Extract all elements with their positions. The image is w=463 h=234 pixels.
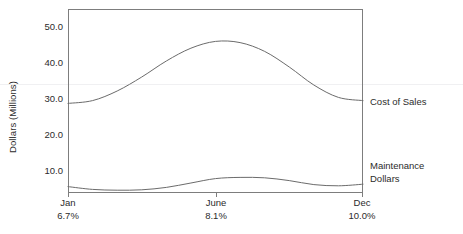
series-label-cost-of-sales: Cost of Sales <box>370 96 427 109</box>
x-axis-percent-label: 6.7% <box>33 210 103 223</box>
x-axis-label-jan: Jan 6.7% <box>33 197 103 222</box>
series-label-maintenance-dollars: Maintenance Dollars <box>370 160 424 185</box>
line-maintenance-dollars <box>68 177 363 190</box>
x-axis-percent-label: 10.0% <box>327 210 397 223</box>
y-tick-label: 30.0 <box>20 93 63 104</box>
x-axis-label-dec: Dec 10.0% <box>327 197 397 222</box>
series-label-line: Dollars <box>370 173 424 186</box>
y-tick-label: 50.0 <box>20 21 63 32</box>
line-cost-of-sales <box>68 41 363 103</box>
y-tick-label: 10.0 <box>20 165 63 176</box>
series-label-line: Maintenance <box>370 160 424 173</box>
x-axis-month-label: Dec <box>327 197 397 210</box>
y-tick-label: 20.0 <box>20 129 63 140</box>
y-tick-label: 40.0 <box>20 57 63 68</box>
x-axis-month-label: Jan <box>33 197 103 210</box>
x-axis-month-label: June <box>181 197 251 210</box>
x-axis-percent-label: 8.1% <box>181 210 251 223</box>
plot-lines <box>68 9 363 193</box>
chart-screenshot: Dollars (Millions) 50.0 40.0 30.0 20.0 1… <box>0 0 463 234</box>
series-label-line: Cost of Sales <box>370 96 427 107</box>
x-axis-label-june: June 8.1% <box>181 197 251 222</box>
